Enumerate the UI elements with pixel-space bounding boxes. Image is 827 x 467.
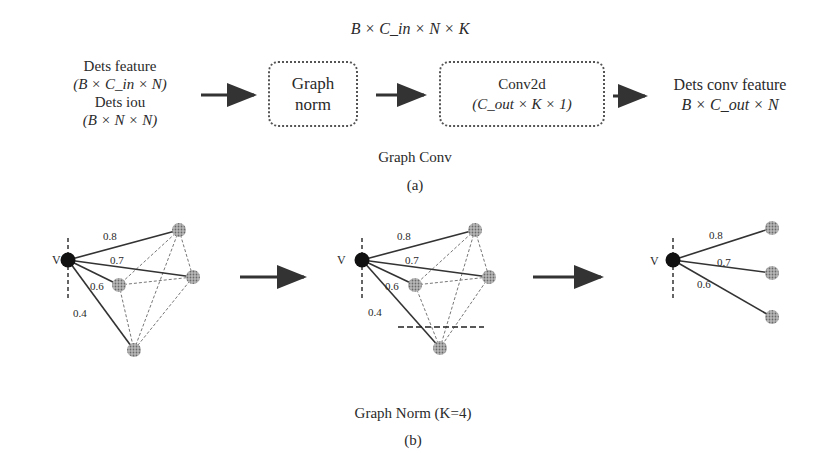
graph-norm-line2: norm (295, 94, 331, 115)
conv2d-box: Conv2d (C_out × K × 1) (439, 61, 605, 127)
output-label: Dets conv feature (645, 75, 815, 95)
graph2-edge-weight-0.6: 0.6 (385, 280, 399, 292)
neighbor-node (468, 223, 482, 237)
input-dets-iou-label: Dets iou (40, 93, 200, 111)
graph2-node-v-label: V (337, 253, 346, 268)
graph1-edge-weight-0.4: 0.4 (73, 307, 87, 319)
graph3-edge-weight-0.7: 0.7 (717, 256, 731, 268)
top-dimension-text: B × C_in × N × K (351, 20, 470, 37)
neighbor-node (127, 343, 141, 357)
graph2-edge-weight-0.4: 0.4 (368, 306, 382, 318)
graph3-edge-weight-0.8: 0.8 (709, 229, 723, 241)
graph-conv-label: Graph Conv (360, 148, 470, 166)
conv2d-line1: Conv2d (498, 74, 546, 94)
input-dets-feature-dim: (B × C_in × N) (40, 75, 200, 93)
caption-b: (b) (393, 431, 433, 449)
center-node (666, 253, 681, 268)
graph1-edge-weight-0.7: 0.7 (110, 254, 124, 266)
top-dimension-label: B × C_in × N × K (310, 20, 510, 38)
graph2-edge-weight-0.8: 0.8 (397, 230, 411, 242)
graph-2 (355, 223, 497, 355)
output-dim: B × C_out × N (645, 95, 815, 115)
graph-1 (61, 223, 201, 357)
center-node (61, 253, 76, 268)
caption-a: (a) (395, 176, 435, 194)
neighbor-node (112, 278, 126, 292)
graph2-edge-weight-0.7: 0.7 (405, 254, 419, 266)
input-block: Dets feature (B × C_in × N) Dets iou (B … (40, 57, 200, 129)
neighbor-node (186, 270, 200, 284)
graph1-edge-weight-0.8: 0.8 (103, 230, 117, 242)
neighbor-node (765, 266, 779, 280)
output-block: Dets conv feature B × C_out × N (645, 75, 815, 115)
graph3-node-v-label: V (650, 254, 659, 269)
conv2d-line2: (C_out × K × 1) (472, 94, 571, 114)
neighbor-node (482, 270, 496, 284)
neighbor-node (765, 221, 779, 235)
input-dets-feature-label: Dets feature (40, 57, 200, 75)
graph1-edge-weight-0.6: 0.6 (90, 280, 104, 292)
graph-norm-title: Graph Norm (K=4) (333, 404, 493, 422)
neighbor-node (765, 310, 779, 324)
input-dets-iou-dim: (B × N × N) (40, 111, 200, 129)
graph-norm-box: Graph norm (268, 61, 358, 127)
center-node (355, 253, 370, 268)
neighbor-node (433, 341, 447, 355)
graph-norm-line1: Graph (292, 73, 334, 94)
neighbor-node (172, 223, 186, 237)
graph1-node-v-label: V (52, 253, 61, 268)
graph3-edge-weight-0.6: 0.6 (697, 278, 711, 290)
neighbor-node (408, 278, 422, 292)
